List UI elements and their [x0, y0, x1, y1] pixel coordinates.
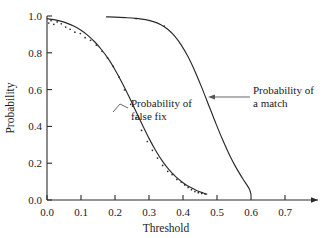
data-point — [101, 50, 103, 52]
data-point — [180, 181, 182, 183]
false-fix-label-line2: false fix — [131, 110, 167, 122]
x-axis-ticks — [47, 195, 285, 200]
y-tick-label-0: 0.0 — [28, 194, 42, 206]
data-point — [167, 170, 169, 172]
data-point — [56, 21, 58, 23]
data-point — [48, 22, 50, 24]
data-point — [201, 193, 203, 195]
y-tick-label-5: 1.0 — [28, 10, 42, 22]
data-point — [176, 179, 178, 181]
data-point — [204, 193, 206, 195]
data-point — [152, 149, 154, 151]
x-tick-label-7: 0.7 — [278, 206, 292, 218]
data-point — [79, 33, 81, 35]
figure-container: 0.0 0.2 0.4 0.6 0.8 1.0 0.0 0.1 0.2 0.3 … — [0, 0, 332, 238]
y-tick-label-1: 0.2 — [28, 157, 42, 169]
data-point — [171, 174, 173, 176]
data-point — [124, 89, 126, 91]
data-point — [162, 165, 164, 167]
data-point — [65, 26, 67, 28]
data-point — [141, 130, 143, 132]
data-point — [187, 187, 189, 189]
data-point — [118, 76, 120, 78]
data-point — [146, 141, 148, 143]
data-point — [107, 57, 109, 59]
x-tick-label-0: 0.0 — [40, 206, 54, 218]
x-axis-tick-labels: 0.0 0.1 0.2 0.3 0.4 0.5 0.6 0.7 — [40, 206, 292, 218]
data-point — [112, 66, 114, 68]
y-axis-title: Probability — [4, 82, 17, 133]
data-point — [135, 18, 137, 20]
data-point — [163, 25, 165, 27]
data-point — [197, 192, 199, 194]
y-axis-tick-labels: 0.0 0.2 0.4 0.6 0.8 1.0 — [28, 10, 42, 206]
x-axis-arrowhead — [311, 197, 318, 203]
x-tick-label-2: 0.2 — [108, 206, 122, 218]
annotation-match: Probability of a match — [208, 84, 314, 109]
x-tick-label-6: 0.6 — [244, 206, 258, 218]
match-label-line2: a match — [253, 97, 288, 109]
y-tick-label-2: 0.4 — [28, 120, 42, 132]
data-point — [84, 37, 86, 39]
data-point — [50, 20, 52, 22]
y-tick-label-3: 0.6 — [28, 84, 42, 96]
data-point — [157, 157, 159, 159]
data-point — [90, 39, 92, 41]
probability-threshold-chart: 0.0 0.2 0.4 0.6 0.8 1.0 0.0 0.1 0.2 0.3 … — [0, 0, 332, 238]
data-point — [60, 23, 62, 25]
data-point — [74, 31, 76, 33]
data-point — [53, 23, 55, 25]
x-tick-label-3: 0.3 — [142, 206, 156, 218]
x-axis-title: Threshold — [143, 222, 190, 234]
false-fix-leader-line — [113, 104, 128, 112]
data-point — [191, 189, 193, 191]
match-label-line1: Probability of — [253, 84, 314, 96]
y-tick-label-4: 0.8 — [28, 47, 42, 59]
x-tick-label-5: 0.5 — [210, 206, 224, 218]
match-leader-arrowhead — [208, 94, 215, 99]
x-tick-label-1: 0.1 — [74, 206, 88, 218]
y-axis-ticks — [47, 16, 52, 200]
annotation-false-fix: Probability of false fix — [113, 97, 192, 122]
false-fix-label-line1: Probability of — [131, 97, 192, 109]
data-point — [95, 44, 97, 46]
x-tick-label-4: 0.4 — [176, 206, 190, 218]
data-point — [69, 28, 71, 30]
axes-group — [47, 16, 318, 203]
data-point — [194, 191, 196, 193]
data-point — [184, 184, 186, 186]
